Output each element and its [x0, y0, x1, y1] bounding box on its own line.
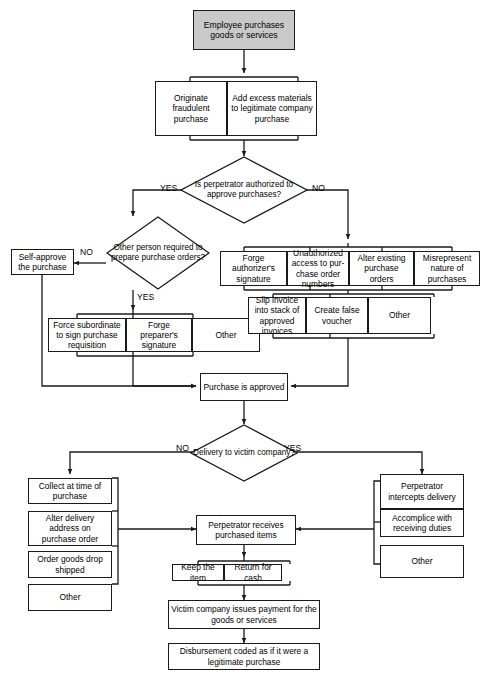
node-alter-delivery-address: Alter delivery address on purchase order [28, 511, 112, 546]
node-keep-the-item: Keep the item [172, 564, 224, 581]
node-other-no-branch: Other [368, 297, 431, 334]
node-unauthorized-access-po-numbers: Unauthorized access to pur-chase order n… [287, 251, 349, 286]
edge-label-other-person-no: NO [80, 247, 93, 257]
node-order-goods-drop-shipped: Order goods drop shipped [28, 551, 112, 578]
node-forge-authorizers-signature: Forge authorizer's signature [220, 251, 287, 286]
flowchart-canvas: Employee purchases goods or services Ori… [0, 0, 489, 678]
node-create-false-voucher: Create false voucher [306, 297, 368, 334]
node-misrepresent-nature-of-purchases: Misrepresent nature of purchases [414, 251, 480, 286]
node-perpetrator-receives-items: Perpetrator receives purchased items [196, 515, 296, 545]
node-purchase-is-approved: Purchase is approved [200, 373, 288, 401]
edge-label-authorized-no: NO [312, 183, 325, 193]
node-return-for-cash: Return for cash [224, 564, 282, 581]
node-perpetrator-intercepts-delivery: Perpetrator intercepts delivery [380, 474, 464, 509]
edge-label-other-person-yes: YES [137, 292, 154, 302]
decision-is-perpetrator-authorized: Is perpetrator authorized to approve pur… [180, 156, 308, 224]
node-force-subordinate-to-sign: Force subordinate to sign purchase requi… [48, 318, 126, 352]
node-accomplice-with-receiving-duties: Accomplice with receiving duties [380, 509, 464, 537]
node-start: Employee purchases goods or services [193, 10, 295, 50]
decision-label: Other person required to prepare purchas… [106, 216, 210, 290]
edge-label-delivery-no: NO [176, 443, 189, 453]
node-victim-company-issues-payment: Victim company issues payment for the go… [168, 600, 320, 629]
decision-delivery-to-victim-company: Delivery to victim company? [190, 424, 298, 482]
decision-other-person-required: Other person required to prepare purchas… [106, 216, 210, 290]
node-forge-preparers-signature: Forge preparer's signature [126, 318, 192, 352]
node-alter-existing-purchase-orders: Alter existing purchase orders [349, 251, 414, 286]
node-disbursement-coded-legitimate: Disbursement coded as if it were a legit… [168, 643, 320, 670]
node-originate-fraudulent-purchase: Originate fraudulent purchase [155, 81, 227, 136]
node-other-delivery-yes: Other [380, 545, 464, 578]
edge-label-authorized-yes: YES [160, 183, 177, 193]
node-slip-invoice-into-stack: Slip invoice into stack of approved invo… [248, 297, 306, 334]
node-other-delivery-no: Other [28, 584, 112, 611]
node-self-approve-the-purchase: Self-approve the purchase [11, 249, 74, 275]
node-add-excess-materials: Add excess materials to legitimate compa… [227, 81, 317, 136]
edge-label-delivery-yes: YES [284, 443, 301, 453]
decision-label: Delivery to victim company? [190, 424, 298, 482]
decision-label: Is perpetrator authorized to approve pur… [180, 156, 308, 224]
node-collect-at-time-of-purchase: Collect at time of purchase [28, 478, 112, 504]
